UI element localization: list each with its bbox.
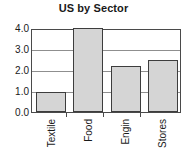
- x-tick-label-food: Food: [84, 119, 94, 142]
- x-tick-label-stores: Stores: [158, 119, 168, 148]
- bar-engin[interactable]: [111, 66, 141, 112]
- y-axis-tick-labels: 0.0 1.0 2.0 3.0 4.0: [0, 29, 29, 113]
- plot-area: [31, 29, 181, 113]
- gridline-3: [32, 50, 180, 51]
- bar-chart-figure: US by Sector 0.0 1.0 2.0 3.0 4.0 Textile…: [0, 0, 187, 168]
- x-tick-label-engin: Engin: [121, 119, 131, 145]
- y-tick-label-2: 2.0: [1, 66, 29, 76]
- x-axis-tick-labels: Textile Food Engin Stores: [31, 113, 181, 168]
- bar-textile[interactable]: [36, 92, 66, 112]
- y-tick-label-4: 4.0: [1, 24, 29, 34]
- y-tick-label-0: 0.0: [1, 108, 29, 118]
- bar-stores[interactable]: [148, 60, 178, 113]
- bar-food[interactable]: [73, 28, 103, 112]
- y-tick-label-1: 1.0: [1, 87, 29, 97]
- chart-title: US by Sector: [0, 2, 187, 15]
- y-tick-label-3: 3.0: [1, 45, 29, 55]
- x-tick-label-textile: Textile: [47, 119, 57, 147]
